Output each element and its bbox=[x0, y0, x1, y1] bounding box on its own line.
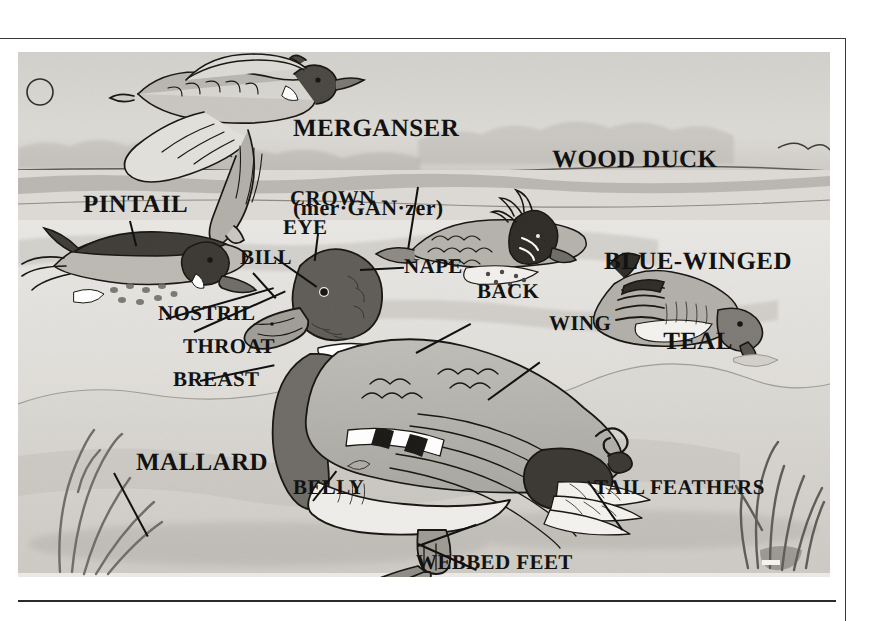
species-label-wood-duck: WOOD DUCK bbox=[552, 147, 717, 173]
species-label-blue-winged-teal-line1: BLUE-WINGED bbox=[598, 249, 798, 275]
part-label-nostril: NOSTRIL bbox=[158, 302, 255, 324]
part-label-webbed-feet: WEBBED FEET bbox=[416, 551, 573, 573]
page-top-rule bbox=[0, 38, 846, 39]
part-label-wing: WING bbox=[549, 312, 611, 334]
illustration-page: MERGANSER (mer·GAN·zer) PINTAIL WOOD DUC… bbox=[0, 0, 873, 621]
page-bottom-rule bbox=[18, 600, 836, 602]
part-label-bill: BILL bbox=[240, 246, 292, 268]
part-label-crown: CROWN bbox=[290, 187, 375, 209]
watercolor-illustration-plate: MERGANSER (mer·GAN·zer) PINTAIL WOOD DUC… bbox=[18, 52, 830, 577]
part-label-throat: THROAT bbox=[183, 335, 275, 357]
species-label-blue-winged-teal: BLUE-WINGED TEAL bbox=[598, 196, 798, 408]
part-label-back: BACK bbox=[477, 280, 539, 302]
page-right-rule bbox=[845, 38, 846, 621]
species-label-merganser: MERGANSER (mer·GAN·zer) bbox=[293, 63, 459, 272]
species-label-mallard: MALLARD bbox=[136, 450, 268, 476]
species-label-merganser-line1: MERGANSER bbox=[293, 116, 459, 142]
part-label-tail-feathers: TAIL FEATHERS bbox=[594, 476, 765, 498]
part-label-eye: EYE bbox=[283, 216, 327, 238]
part-label-breast: BREAST bbox=[173, 368, 259, 390]
species-label-pintail: PINTAIL bbox=[83, 192, 188, 218]
part-label-belly: BELLY bbox=[293, 476, 364, 498]
species-label-blue-winged-teal-line2: TEAL bbox=[598, 329, 798, 355]
part-label-nape: NAPE bbox=[404, 255, 463, 277]
